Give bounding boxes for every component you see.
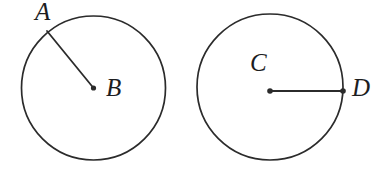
right-circle-endpoint-point bbox=[340, 88, 346, 94]
point-label-a: A bbox=[35, 0, 50, 24]
point-label-d: D bbox=[352, 75, 370, 100]
geometry-figure: A B C D bbox=[0, 0, 374, 170]
figure-svg bbox=[0, 0, 374, 170]
point-label-b: B bbox=[106, 75, 121, 100]
right-circle-outline bbox=[197, 14, 343, 160]
point-label-c: C bbox=[250, 50, 267, 75]
left-circle-center-point bbox=[91, 85, 96, 90]
right-circle-center-point bbox=[267, 88, 273, 94]
left-circle-radius-line bbox=[47, 31, 94, 88]
